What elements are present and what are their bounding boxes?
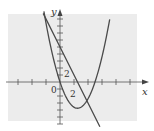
y-axis-label: y	[50, 6, 57, 17]
y-tick-label-2: 2	[64, 69, 70, 79]
x-axis-arrow-icon	[142, 80, 149, 85]
plot-background	[8, 14, 137, 121]
y-axis-arrow-icon	[58, 9, 63, 16]
x-tick-label-2: 2	[70, 89, 76, 99]
x-axis-label: x	[142, 86, 148, 97]
graph: y x 0 2 2	[0, 0, 154, 131]
origin-label: 0	[51, 85, 57, 95]
